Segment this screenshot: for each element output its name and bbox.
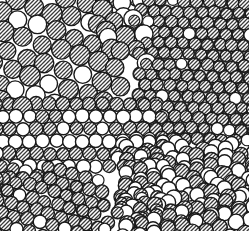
- bubble-raft-figure: Bubble raft model of a polycrystalline p…: [0, 0, 249, 237]
- bubble-raft-canvas: [0, 0, 249, 237]
